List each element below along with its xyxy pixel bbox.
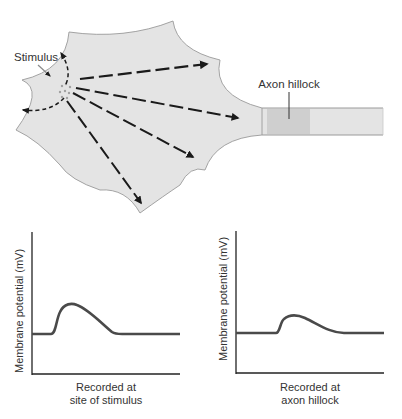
graph1-y-axis-label: Membrane potential (mV): [13, 249, 26, 373]
neuron-diagram: [0, 0, 402, 419]
graph1-caption-line2: site of stimulus: [70, 394, 143, 407]
graph2-caption-line1: Recorded at: [280, 381, 340, 394]
cell-body: [16, 21, 262, 213]
membrane-potential-curve: [236, 316, 384, 334]
graph2-y-axis-label: Membrane potential (mV): [217, 237, 230, 361]
axon-hillock-label: Axon hillock: [258, 78, 319, 91]
stimulus-label: Stimulus: [14, 51, 58, 64]
membrane-potential-curve: [32, 304, 180, 334]
graph1-caption-line1: Recorded at: [76, 381, 136, 394]
graph2-caption-line2: axon hillock: [281, 394, 338, 407]
graph-axon-hillock: [236, 231, 384, 374]
graph-site-of-stimulus: [32, 232, 180, 375]
